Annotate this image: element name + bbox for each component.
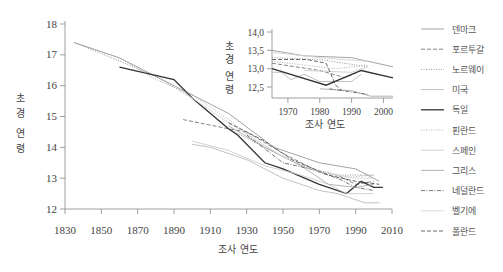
series-line [183,120,374,185]
menarche-age-chart: 1213141516171818301850187018901910193019… [0,0,503,272]
x-tick-label: 1910 [199,224,222,236]
y-tick-label: 14,0 [247,28,264,38]
legend-label: 미국 [452,85,468,95]
svg-text:연: 연 [16,128,25,139]
svg-text:연: 연 [225,71,234,82]
y-tick-label: 13,0 [247,64,264,74]
y-tick-label: 18 [46,18,58,30]
y-tick-label: 13,5 [247,46,264,56]
x-tick-label: 2010 [381,224,404,236]
x-tick-label: 2000 [374,107,393,117]
series-line [174,86,374,179]
legend-label: 노르웨이 [452,64,484,75]
legend-item: 핀란드 [421,125,476,136]
y-tick-label: 12,5 [247,83,264,93]
legend-label: 포르투갈 [452,45,484,55]
inset-x-axis-title: 조사 연도 [305,119,344,130]
y-tick-label: 16 [46,79,58,91]
svg-text:령: 령 [225,84,234,95]
svg-text:경: 경 [16,107,25,119]
legend-item: 노르웨이 [421,64,484,75]
x-tick-label: 1890 [163,224,186,236]
inset-y-axis-title: 초 경 연 령 [225,41,234,95]
legend-label: 그리스 [452,166,476,176]
legend-item: 덴마크 [421,25,476,35]
svg-text:령: 령 [16,143,25,154]
x-tick-label: 1830 [54,224,77,236]
legend-item: 미국 [421,85,468,95]
main-x-axis-title: 조사 연도 [218,244,257,255]
legend-label: 벨기에 [452,206,476,216]
legend: 덴마크포르투갈노르웨이미국독일핀란드스페인그리스네덜란드벨기에폴란드 [421,25,484,237]
legend-label: 덴마크 [452,25,476,35]
legend-item: 폴란드 [421,226,476,237]
x-tick-label: 1990 [342,107,361,117]
inset-plot: 12,513,013,514,01970198019902000 [247,28,393,118]
legend-item: 포르투갈 [421,45,484,55]
svg-text:경: 경 [225,53,234,65]
legend-label: 네덜란드 [452,185,484,196]
svg-text:초: 초 [16,93,25,104]
legend-label: 스페인 [452,146,476,156]
legend-item: 독일 [421,105,468,115]
main-y-axis-title: 초 경 연 령 [16,93,25,154]
x-tick-label: 1980 [310,107,329,117]
series-line [329,89,367,95]
series-line [272,60,342,91]
series-line [83,46,374,179]
legend-item: 네덜란드 [421,185,484,196]
legend-label: 독일 [452,105,468,115]
legend-label: 폴란드 [452,226,476,237]
x-tick-label: 1970 [278,107,297,117]
legend-label: 핀란드 [452,125,476,136]
series-line [272,72,361,81]
legend-item: 그리스 [421,166,476,176]
x-tick-label: 1870 [127,224,150,236]
legend-item: 스페인 [421,146,476,156]
y-tick-label: 15 [46,110,58,122]
y-tick-label: 17 [46,48,58,60]
legend-item: 벨기에 [421,206,476,216]
y-tick-label: 13 [46,172,58,184]
svg-text:초: 초 [225,41,234,52]
x-tick-label: 1930 [236,224,259,236]
x-tick-label: 1950 [272,224,295,236]
x-tick-label: 1850 [90,224,113,236]
y-tick-label: 12 [46,203,57,215]
x-tick-label: 1990 [345,224,368,236]
series-line [229,123,380,185]
y-tick-label: 14 [46,141,58,153]
x-tick-label: 1970 [308,224,331,236]
